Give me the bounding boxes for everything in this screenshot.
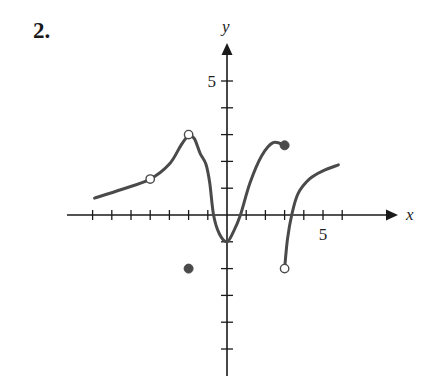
y-axis-label: y bbox=[220, 17, 230, 36]
filled-point-marker bbox=[280, 141, 289, 150]
curves bbox=[95, 135, 339, 269]
y-tick-label: 5 bbox=[208, 72, 217, 91]
function-graph: x y 55 bbox=[0, 0, 429, 390]
x-axis-arrow-icon bbox=[386, 210, 398, 221]
y-axis-arrow-icon bbox=[222, 43, 233, 55]
curve-piece-2-center bbox=[189, 135, 285, 242]
point-markers bbox=[146, 130, 289, 273]
curve-piece-1-left bbox=[95, 135, 189, 199]
tick-labels: 55 bbox=[208, 72, 328, 244]
open-point-marker bbox=[146, 175, 154, 183]
filled-point-marker bbox=[184, 264, 193, 273]
x-axis-label: x bbox=[405, 205, 414, 224]
x-tick-label: 5 bbox=[319, 225, 328, 244]
open-point-marker bbox=[184, 130, 192, 138]
axes bbox=[67, 43, 398, 376]
open-point-marker bbox=[280, 264, 288, 272]
curve-piece-3-right bbox=[285, 165, 339, 269]
